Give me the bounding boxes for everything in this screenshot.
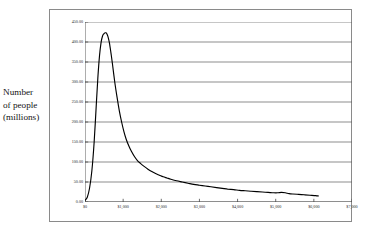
y-axis-caption-line-3: (millions) <box>3 111 49 124</box>
x-axis-tick-label: $7,000 <box>346 205 357 209</box>
chart-title: WORLD INCOME DISTRIBUTION <box>0 0 366 1</box>
x-axis-tick-label: $5,000 <box>270 205 281 209</box>
y-axis-caption: Number of people (millions) <box>3 86 49 124</box>
x-axis-tick-label: $4,000 <box>232 205 243 209</box>
income-distribution-curve <box>85 33 318 201</box>
y-axis-tick-label: 200.00 <box>49 120 83 124</box>
x-axis-tick-marks <box>85 199 352 202</box>
y-axis-tick-label: 350.00 <box>49 60 83 64</box>
x-axis-tick-label: $1,000 <box>118 205 129 209</box>
plot-area <box>85 22 352 202</box>
x-axis-tick-label: $2,000 <box>156 205 167 209</box>
x-axis-tick-labels: $0$1,000$2,000$3,000$4,000$5,000$6,000$7… <box>85 205 352 213</box>
y-axis-tick-label: 300.00 <box>49 80 83 84</box>
x-axis-tick-label: $0 <box>83 205 87 209</box>
y-axis-tick-label: 250.00 <box>49 100 83 104</box>
x-axis-tick-label: $6,000 <box>308 205 319 209</box>
y-axis-tick-label: 450.00 <box>49 20 83 24</box>
gridlines <box>85 22 352 202</box>
axis-lines <box>85 22 352 202</box>
chart-figure: WORLD INCOME DISTRIBUTION Number of peop… <box>0 0 366 235</box>
y-axis-tick-label: 150.00 <box>49 140 83 144</box>
y-axis-tick-label: 0.00 <box>49 200 83 204</box>
y-axis-caption-line-1: Number <box>3 86 49 99</box>
x-axis-tick-label: $3,000 <box>194 205 205 209</box>
y-axis-tick-label: 50.00 <box>49 180 83 184</box>
y-axis-tick-marks <box>85 22 88 202</box>
y-axis-caption-line-2: of people <box>3 99 49 112</box>
y-axis-tick-label: 100.00 <box>49 160 83 164</box>
y-axis-tick-label: 400.00 <box>49 40 83 44</box>
plot-svg <box>85 22 352 202</box>
y-axis-tick-labels: 0.0050.00100.00150.00200.00250.00300.003… <box>49 22 83 202</box>
